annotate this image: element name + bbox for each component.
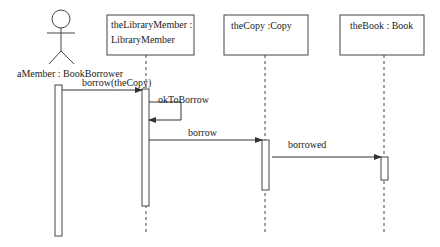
message-label-borrowed: borrowed [288, 139, 326, 150]
message-label-borrow-thecopy: borrow(theCopy) [82, 77, 151, 89]
activation-copy [262, 140, 269, 190]
message-label-borrow: borrow [188, 127, 218, 138]
object-label-line2: LibraryMember [111, 34, 176, 45]
object-box-copy: theCopy :Copy [224, 15, 308, 55]
activation-bars [55, 85, 388, 236]
object-box-library-member: theLibraryMember : LibraryMember [107, 15, 194, 55]
sequence-diagram: aMember : BookBorrower theLibraryMember … [0, 0, 440, 247]
activation-book [381, 157, 388, 180]
object-label: theBook : Book [350, 20, 413, 31]
messages [62, 90, 381, 157]
activation-actor [55, 85, 62, 236]
object-box-book: theBook : Book [340, 15, 424, 55]
object-label-line1: theLibraryMember : [111, 19, 192, 30]
message-label-oktoborrow: okToBorrow [158, 94, 210, 105]
activation-library-member [142, 89, 149, 206]
actor-stick-figure-icon [47, 10, 75, 64]
object-label: theCopy :Copy [231, 20, 292, 31]
